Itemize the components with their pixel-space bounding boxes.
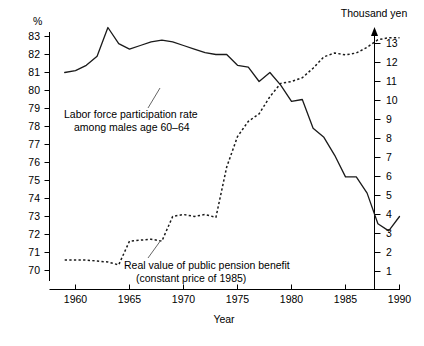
left-tick-label-80: 80: [28, 84, 40, 96]
left-tick-label-78: 78: [28, 120, 40, 132]
x-tick-label-1980: 1980: [280, 293, 304, 305]
right-tick-label-6: 6: [386, 170, 392, 182]
left-tick-label-77: 77: [28, 138, 40, 150]
right-tick-label-11: 11: [386, 75, 397, 87]
x-tick-label-1990: 1990: [388, 293, 412, 305]
annotation-pension: Real value of public pension benefit (co…: [124, 240, 290, 284]
right-tick-label-4: 4: [386, 208, 392, 220]
right-tick-label-5: 5: [386, 189, 392, 201]
right-tick-label-9: 9: [386, 113, 392, 125]
annotation-labor-force: Labor force participation rate among mal…: [64, 88, 198, 133]
x-tick-label-1960: 1960: [64, 293, 88, 305]
right-axis-tick-labels: 1 2 3 4 5 6 7 8 9 10 11 12 13: [386, 37, 398, 277]
plot-area: [65, 28, 400, 265]
right-tick-label-2: 2: [386, 246, 392, 258]
chart-canvas: % 70 71 72 73: [0, 0, 424, 346]
right-tick-label-13: 13: [386, 37, 398, 49]
right-axis-title: Thousand yen: [341, 7, 408, 19]
right-tick-label-8: 8: [386, 132, 392, 144]
x-tick-label-1970: 1970: [172, 293, 196, 305]
left-tick-label-83: 83: [28, 30, 40, 42]
left-tick-label-72: 72: [28, 228, 40, 240]
left-tick-label-79: 79: [28, 102, 40, 114]
right-tick-label-7: 7: [386, 151, 392, 163]
left-tick-label-75: 75: [28, 174, 40, 186]
left-tick-label-71: 71: [28, 246, 40, 258]
annotation-pension-leader-line: [148, 240, 161, 258]
left-tick-label-73: 73: [28, 210, 40, 222]
right-tick-label-1: 1: [386, 265, 392, 277]
chart-figure: % 70 71 72 73: [0, 0, 424, 346]
x-axis: 1960 1965 1970 1975 1980 1985 1990 Year: [50, 285, 412, 326]
left-tick-label-81: 81: [28, 66, 40, 78]
left-tick-label-70: 70: [28, 264, 40, 276]
annotation-pension-line-2: (constant price of 1985): [136, 272, 246, 284]
annotation-pension-line-1: Real value of public pension benefit: [124, 259, 290, 271]
right-tick-label-10: 10: [386, 94, 398, 106]
right-axis-ticks: [375, 44, 381, 272]
x-tick-label-1985: 1985: [334, 293, 358, 305]
right-axis-arrow-icon: [371, 27, 378, 36]
left-axis-tick-labels: 70 71 72 73 74 75 76 77 78 79 80 81 82 8…: [28, 30, 40, 276]
annotation-labor-leader-line: [148, 88, 160, 108]
series-real-value-public-pension-benefit: [65, 38, 400, 265]
x-tick-label-1965: 1965: [118, 293, 142, 305]
left-tick-label-74: 74: [28, 192, 40, 204]
right-y-axis: Thousand yen 1 2 3 4: [341, 7, 408, 290]
left-tick-label-76: 76: [28, 156, 40, 168]
left-tick-label-82: 82: [28, 48, 40, 60]
x-axis-tick-labels: 1960 1965 1970 1975 1980 1985 1990: [64, 293, 412, 305]
x-axis-ticks: [76, 285, 400, 290]
x-tick-label-1975: 1975: [226, 293, 250, 305]
annotation-labor-line-2: among males age 60–64: [74, 121, 190, 133]
x-axis-title: Year: [213, 313, 235, 325]
annotation-labor-line-1: Labor force participation rate: [64, 108, 198, 120]
right-tick-label-12: 12: [386, 56, 398, 68]
left-axis-ticks: [45, 37, 50, 271]
left-y-axis: % 70 71 72 73: [28, 15, 49, 281]
left-axis-title: %: [33, 15, 42, 27]
right-tick-label-3: 3: [386, 227, 392, 239]
